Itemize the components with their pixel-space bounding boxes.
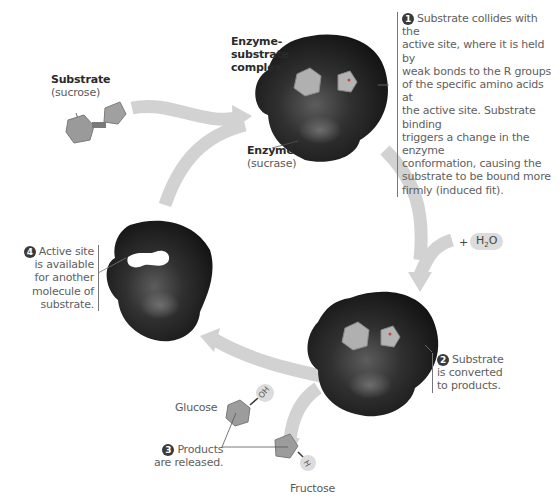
step-1-line: weak bonds to the R groups: [402, 65, 551, 78]
water-label: H2O: [470, 233, 503, 250]
substrate-title: Substrate: [51, 73, 110, 86]
step-4-callout: 4Active site is available for another mo…: [17, 245, 99, 311]
enzyme-subtitle: (sucrase): [247, 157, 296, 170]
sucrose-molecule: [66, 102, 126, 143]
complex-label: Enzyme- substrate complex: [231, 35, 289, 74]
fructose-label: Fructose: [290, 482, 335, 495]
enzyme-products-stage: [307, 292, 438, 416]
step-4-line: Active site: [39, 245, 94, 258]
step-1-line: Substrate collides with the: [402, 12, 537, 38]
step-4-line: is available: [34, 258, 94, 271]
glucose-label: Glucose: [175, 401, 217, 414]
complex-label-line3: complex: [231, 61, 289, 74]
substrate-label: Substrate (sucrose): [51, 73, 110, 99]
step-2-badge: 2: [437, 354, 449, 366]
step-1-line: substrate to be bound more: [402, 170, 551, 183]
step-1-line: active site, where it is held by: [402, 38, 544, 64]
water-o: O: [489, 234, 498, 247]
complex-label-line1: Enzyme-: [231, 35, 289, 48]
complex-label-line2: substrate: [231, 48, 289, 61]
step-4-line: molecule of: [32, 285, 94, 298]
step-3-callout: 3Products are released.: [154, 443, 223, 469]
substrate-subtitle: (sucrose): [51, 86, 110, 99]
step-3-badge: 3: [162, 444, 174, 456]
step-4-line: for another: [35, 271, 94, 284]
step-1-line: of the specific amino acids at: [402, 78, 544, 104]
step-3-line: are released.: [154, 456, 223, 469]
step-3-line: Products: [177, 443, 223, 456]
plus-sign: +: [459, 236, 468, 249]
step-1-callout: 1Substrate collides with the active site…: [397, 12, 557, 197]
enzyme-label: Enzyme (sucrase): [247, 144, 296, 170]
step-1-line: the active site. Substrate binding: [402, 104, 535, 130]
enzyme-title: Enzyme: [247, 144, 296, 157]
step-2-line: to products.: [437, 379, 501, 392]
step-1-badge: 1: [402, 13, 414, 25]
substrate-entry-arrow: [132, 106, 238, 119]
step-1-line: triggers a change in the enzyme: [402, 131, 529, 157]
products-arrow: [290, 388, 318, 440]
step-4-badge: 4: [24, 246, 36, 258]
arc-left-top: [165, 125, 245, 205]
step-1-line: firmly (induced fit).: [402, 184, 503, 197]
step-4-line: substrate.: [40, 298, 94, 311]
step-1-line: conformation, causing the: [402, 157, 541, 170]
step-2-callout: 2Substrate is converted to products.: [432, 353, 504, 393]
enzyme-free-active-site: [107, 221, 213, 342]
step-2-line: Substrate: [452, 353, 504, 366]
step-2-line: is converted: [437, 366, 503, 379]
